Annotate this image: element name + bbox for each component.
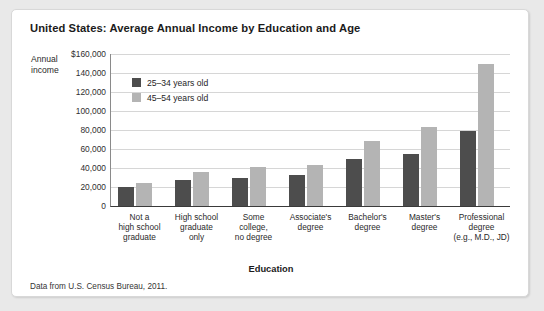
bar-group: Professionaldegree(e.g., M.D., JD) <box>453 54 510 206</box>
category-label-line: degree <box>280 222 342 232</box>
y-axis-tick-label: 120,000 <box>76 87 106 97</box>
plot-wrapper: $160,000140,000120,000100,00080,00060,00… <box>12 10 528 296</box>
legend-item: 45–54 years old <box>132 91 208 104</box>
legend-item: 25–34 years old <box>132 76 208 89</box>
legend-swatch-icon <box>132 93 141 102</box>
category-label-line: Bachelor's <box>337 212 399 222</box>
category-label-line: Master's <box>394 212 456 222</box>
category-label-line: degree <box>451 222 513 232</box>
bar <box>232 178 248 207</box>
category-label-line: college, <box>223 222 285 232</box>
y-axis-tick-label: 40,000 <box>80 163 106 173</box>
bar <box>136 183 152 206</box>
bar <box>250 167 266 206</box>
y-axis-tick-label: 60,000 <box>80 144 106 154</box>
bar-group: Bachelor'sdegree <box>339 54 396 206</box>
bar-group: Somecollege,no degree <box>225 54 282 206</box>
source-note: Data from U.S. Census Bureau, 2011. <box>30 282 167 291</box>
bar <box>364 141 380 206</box>
bar-group: Master'sdegree <box>396 54 453 206</box>
y-axis-tick-label: 0 <box>101 201 106 211</box>
y-axis-tick-label: $160,000 <box>71 49 106 59</box>
x-axis-category-label: Not ahigh schoolgraduate <box>109 212 171 243</box>
category-label-line: high school <box>109 222 171 232</box>
category-label-line: Professional <box>451 212 513 222</box>
bar <box>460 131 476 206</box>
y-axis-tick-label: 140,000 <box>76 68 106 78</box>
bar-group: Associate'sdegree <box>282 54 339 206</box>
legend-swatch-icon <box>132 78 141 87</box>
bar <box>478 64 494 207</box>
category-label-line: degree <box>337 222 399 232</box>
x-axis-category-label: Bachelor'sdegree <box>337 212 399 232</box>
x-axis-category-label: Associate'sdegree <box>280 212 342 232</box>
bar <box>175 180 191 206</box>
x-axis-category-label: Somecollege,no degree <box>223 212 285 243</box>
y-axis-tick-label: 100,000 <box>76 106 106 116</box>
x-axis-category-label: High schoolgraduateonly <box>166 212 228 243</box>
legend-label: 25–34 years old <box>147 78 208 88</box>
category-label-line: Some <box>223 212 285 222</box>
category-label-line: Associate's <box>280 212 342 222</box>
x-axis-title: Education <box>12 264 530 274</box>
category-label-line: High school <box>166 212 228 222</box>
category-label-line: Not a <box>109 212 171 222</box>
bar <box>307 165 323 206</box>
y-axis-tick-label: 80,000 <box>80 125 106 135</box>
bar <box>118 187 134 206</box>
y-axis-tick-label: 20,000 <box>80 182 106 192</box>
category-label-line: no degree <box>223 232 285 242</box>
x-axis-category-label: Professionaldegree(e.g., M.D., JD) <box>451 212 513 243</box>
category-label-line: (e.g., M.D., JD) <box>451 232 513 242</box>
bar <box>421 127 437 206</box>
bar <box>346 159 362 206</box>
category-label-line: graduate <box>109 232 171 242</box>
bar <box>403 154 419 206</box>
bar <box>289 175 305 206</box>
category-label-line: graduate <box>166 222 228 232</box>
x-axis-category-label: Master'sdegree <box>394 212 456 232</box>
legend-label: 45–54 years old <box>147 93 208 103</box>
category-label-line: degree <box>394 222 456 232</box>
bar <box>193 172 209 206</box>
figure-card: United States: Average Annual Income by … <box>11 9 529 297</box>
legend: 25–34 years old45–54 years old <box>132 76 208 106</box>
category-label-line: only <box>166 232 228 242</box>
